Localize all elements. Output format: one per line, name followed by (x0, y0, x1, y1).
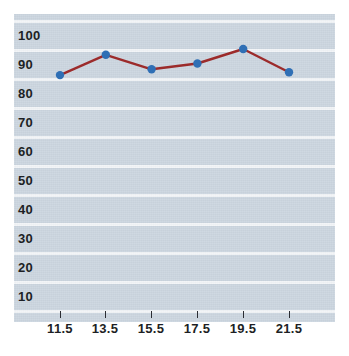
gridline-80 (14, 78, 335, 81)
x-axis-label-13-5: 13.5 (92, 322, 119, 335)
x-axis-tick-13-5 (105, 311, 106, 318)
y-axis-label-100: 100 (18, 29, 41, 42)
gridline-60 (14, 136, 335, 139)
x-axis-tick-15-5 (151, 311, 152, 318)
y-axis-label-40: 40 (18, 203, 33, 216)
x-axis-tick-21-5 (289, 311, 290, 318)
paper-texture (14, 14, 335, 322)
x-axis-tick-17-5 (197, 311, 198, 318)
gridline-90 (14, 49, 335, 52)
y-axis-label-80: 80 (18, 87, 33, 100)
y-axis-label-10: 10 (18, 290, 33, 303)
gridline-100 (14, 20, 335, 23)
x-axis-tick-11-5 (60, 311, 61, 318)
gridline-20 (14, 252, 335, 255)
gridline-50 (14, 165, 335, 168)
x-axis-label-15-5: 15.5 (138, 322, 165, 335)
x-axis-label-21-5: 21.5 (276, 322, 303, 335)
gridline-40 (14, 194, 335, 197)
y-axis-label-50: 50 (18, 174, 33, 187)
gridline-10 (14, 281, 335, 284)
x-axis-label-11-5: 11.5 (47, 322, 73, 335)
y-axis-label-90: 90 (18, 58, 33, 71)
gridline-70 (14, 107, 335, 110)
plot-area (14, 14, 335, 322)
line-chart: 100 90 80 70 60 50 40 30 20 10 11.5 13.5… (0, 0, 349, 356)
gridline-0 (14, 310, 335, 313)
x-axis-label-19-5: 19.5 (230, 322, 257, 335)
y-axis-label-20: 20 (18, 261, 33, 274)
gridline-30 (14, 223, 335, 226)
x-axis-tick-19-5 (243, 311, 244, 318)
y-axis-label-70: 70 (18, 116, 33, 129)
y-axis-label-60: 60 (18, 145, 33, 158)
y-axis-label-30: 30 (18, 232, 33, 245)
x-axis-label-17-5: 17.5 (184, 322, 211, 335)
